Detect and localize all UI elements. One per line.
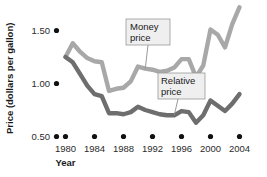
y-tick-label-050: 0.50 — [32, 131, 51, 142]
y-tick-label-100: 1.00 — [32, 78, 51, 89]
money-price-leader-line — [145, 45, 148, 69]
y-tick-dot-100 — [54, 81, 59, 86]
x-tick-dot-2004 — [237, 134, 242, 139]
x-tick-label-1988: 1988 — [113, 143, 134, 154]
y-axis-title: Price (dollars per gallon) — [4, 23, 15, 134]
money-price-callout: Money price — [126, 19, 170, 45]
x-tick-label-1996: 1996 — [171, 143, 192, 154]
x-tick-dot-1992 — [150, 134, 155, 139]
x-tick-dot-1984 — [92, 134, 97, 139]
relative-price-callout-line1: Relative — [161, 75, 195, 86]
x-tick-dot-1988 — [121, 134, 126, 139]
relative-price-callout: Relative price — [158, 73, 205, 99]
money-price-callout-line2: price — [130, 32, 151, 43]
x-tick-label-1980: 1980 — [55, 143, 76, 154]
gasoline-price-line-chart: Price (dollars per gallon) 1.50 1.00 0.5… — [0, 0, 267, 177]
series-line-relative-price — [66, 57, 240, 123]
relative-price-callout-line2: price — [161, 86, 182, 97]
x-tick-label-1992: 1992 — [142, 143, 163, 154]
x-tick-dot-2000 — [208, 134, 213, 139]
chart-figure: Price (dollars per gallon) 1.50 1.00 0.5… — [0, 0, 267, 177]
y-tick-label-150: 1.50 — [32, 25, 51, 36]
y-tick-dot-050 — [54, 134, 59, 139]
x-axis-title: Year — [55, 157, 75, 168]
x-tick-label-2004: 2004 — [229, 143, 250, 154]
money-price-callout-line1: Money — [130, 21, 159, 32]
x-tick-label-2000: 2000 — [200, 143, 221, 154]
x-tick-label-1984: 1984 — [84, 143, 105, 154]
x-tick-dot-origin — [63, 134, 68, 139]
y-tick-dot-150 — [54, 28, 59, 33]
x-tick-dot-1996 — [179, 134, 184, 139]
